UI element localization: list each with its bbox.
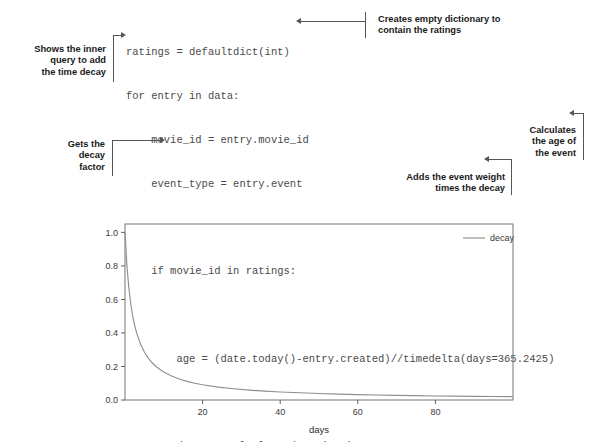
y-tick-label: 0.8 bbox=[105, 261, 118, 271]
callout-line: contain the ratings bbox=[378, 25, 538, 36]
plot-frame bbox=[125, 224, 513, 400]
callout-leader-horizontal bbox=[574, 113, 583, 114]
callout-line: times the decay bbox=[381, 183, 505, 194]
callout-arrowhead-right-icon bbox=[121, 32, 126, 38]
callout-shows-inner-query: Shows the inner query to add the time de… bbox=[14, 44, 106, 78]
y-tick-label: 0.2 bbox=[105, 362, 118, 372]
callout-leader-horizontal bbox=[112, 140, 160, 141]
callout-leader-vertical bbox=[365, 12, 366, 38]
callout-leader-vertical bbox=[112, 140, 113, 176]
callout-gets-decay-factor: Gets the decay factor bbox=[48, 139, 105, 173]
callout-line: Adds the event weight bbox=[381, 172, 505, 183]
y-axis: 0.00.20.40.60.81.0 bbox=[105, 228, 125, 406]
callout-line: Calculates bbox=[512, 125, 576, 136]
series-line-decay bbox=[125, 232, 513, 396]
callout-calculates-age: Calculates the age of the event bbox=[512, 125, 576, 159]
callout-arrowhead-right-icon bbox=[160, 137, 165, 143]
x-tick-label: 60 bbox=[353, 407, 363, 417]
chart-legend: decay bbox=[463, 233, 515, 243]
x-tick-label: 20 bbox=[198, 407, 208, 417]
callout-line: the age of bbox=[512, 136, 576, 147]
series-group bbox=[125, 232, 513, 396]
decay-chart: 0.00.20.40.60.81.0 20406080 decay days bbox=[78, 212, 548, 440]
callout-creates-empty-dictionary: Creates empty dictionary to contain the … bbox=[378, 14, 538, 37]
code-line: for entry in data: bbox=[126, 89, 554, 104]
legend-label-decay: decay bbox=[490, 233, 515, 243]
callout-line: the event bbox=[512, 148, 576, 159]
callout-line: factor bbox=[48, 162, 105, 173]
callout-leader-vertical bbox=[113, 35, 114, 82]
callout-line: query to add bbox=[14, 55, 106, 66]
y-tick-label: 1.0 bbox=[105, 228, 118, 238]
code-line: ratings = defaultdict(int) bbox=[126, 45, 554, 60]
callout-leader-vertical bbox=[511, 159, 512, 195]
callout-leader-horizontal bbox=[301, 21, 365, 22]
callout-adds-event-weight: Adds the event weight times the decay bbox=[381, 172, 505, 195]
callout-line: the time decay bbox=[14, 67, 106, 78]
callout-leader-horizontal bbox=[489, 159, 511, 160]
y-tick-label: 0.4 bbox=[105, 328, 118, 338]
y-tick-label: 0.6 bbox=[105, 295, 118, 305]
y-tick-label: 0.0 bbox=[105, 395, 118, 405]
callout-leader-vertical bbox=[583, 113, 584, 160]
x-tick-label: 40 bbox=[275, 407, 285, 417]
x-axis: 20406080 bbox=[198, 400, 441, 417]
decay-chart-svg: 0.00.20.40.60.81.0 20406080 decay days bbox=[78, 212, 548, 440]
callout-line: Creates empty dictionary to bbox=[378, 14, 538, 25]
callout-line: decay bbox=[48, 150, 105, 161]
callout-leader-horizontal bbox=[113, 35, 121, 36]
x-tick-label: 80 bbox=[430, 407, 440, 417]
callout-line: Shows the inner bbox=[14, 44, 106, 55]
code-line: movie_id = entry.movie_id bbox=[126, 133, 554, 148]
x-axis-title: days bbox=[309, 424, 329, 435]
callout-line: Gets the bbox=[48, 139, 105, 150]
